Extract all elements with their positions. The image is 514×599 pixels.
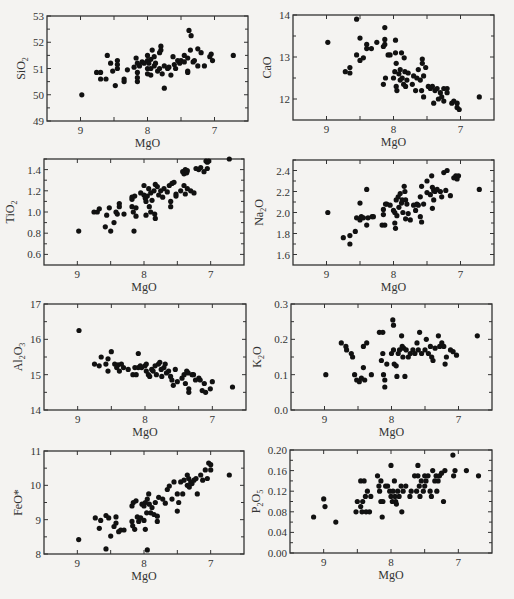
data-point <box>421 94 426 99</box>
data-point <box>444 354 449 359</box>
data-point <box>208 467 213 472</box>
y-axis-label: Al2O3 <box>11 343 27 372</box>
scatter-panel-na2o: 987MgO1.61.82.02.22.4Na2O <box>252 160 494 294</box>
data-point <box>369 46 374 51</box>
data-point <box>355 499 360 504</box>
y-tick-label: 17 <box>30 298 42 310</box>
data-point <box>381 372 386 377</box>
data-point <box>104 213 109 218</box>
data-point <box>343 69 348 74</box>
data-point <box>97 363 102 368</box>
y-axis-label: Na2O <box>252 199 268 226</box>
data-point <box>352 372 357 377</box>
data-point <box>126 367 131 372</box>
data-point <box>155 519 160 524</box>
data-point <box>202 63 207 68</box>
data-point <box>113 521 118 526</box>
data-point <box>171 479 176 484</box>
data-point <box>117 201 122 206</box>
data-point <box>202 381 207 386</box>
data-point <box>151 188 156 193</box>
data-point <box>198 377 203 382</box>
data-point <box>380 514 385 519</box>
y-tick-label: 50 <box>33 89 45 101</box>
data-point <box>457 107 462 112</box>
data-point <box>445 168 450 173</box>
data-point <box>362 377 367 382</box>
data-point <box>384 362 389 367</box>
data-point <box>364 340 369 345</box>
x-tick-label: 8 <box>388 556 394 568</box>
x-axis-label: MgO <box>132 425 158 439</box>
data-point <box>404 202 409 207</box>
data-point <box>148 73 153 78</box>
data-point <box>429 173 434 178</box>
data-point <box>399 509 404 514</box>
data-point <box>105 53 110 58</box>
data-point <box>363 494 368 499</box>
data-point <box>97 526 102 531</box>
x-tick-label: 8 <box>391 268 397 280</box>
data-point <box>117 369 122 374</box>
data-point <box>436 333 441 338</box>
x-tick-label: 8 <box>141 557 147 569</box>
y-tick-label: 0.16 <box>268 465 288 477</box>
data-point <box>141 518 146 523</box>
scatter-panel-tio2: 987MgO0.60.81.01.21.4TiO2 <box>3 156 244 294</box>
data-points <box>76 460 232 552</box>
data-point <box>395 489 400 494</box>
data-point <box>399 484 404 489</box>
data-points <box>311 453 481 525</box>
data-point <box>185 168 190 173</box>
data-point <box>414 340 419 345</box>
x-axis-label: MgO <box>381 280 407 294</box>
y-tick-label: 1.4 <box>27 164 41 176</box>
data-point <box>428 192 433 197</box>
data-point <box>421 489 426 494</box>
data-point <box>350 354 355 359</box>
data-point <box>192 58 197 63</box>
data-point <box>399 50 404 55</box>
data-point <box>333 520 338 525</box>
data-point <box>403 484 408 489</box>
data-point <box>133 214 138 219</box>
data-point <box>182 59 187 64</box>
x-tick-label: 8 <box>141 268 147 280</box>
data-point <box>424 337 429 342</box>
data-point <box>382 377 387 382</box>
data-point <box>134 372 139 377</box>
data-point <box>431 197 436 202</box>
data-point <box>382 25 387 30</box>
data-point <box>167 483 172 488</box>
data-point <box>210 58 215 63</box>
data-points <box>76 156 232 233</box>
data-point <box>357 36 362 41</box>
data-point <box>183 381 188 386</box>
data-point <box>376 484 381 489</box>
data-point <box>362 478 367 483</box>
data-point <box>454 353 459 358</box>
data-point <box>394 61 399 66</box>
data-point <box>121 212 126 217</box>
data-point <box>144 362 149 367</box>
y-tick-label: 0.20 <box>268 444 288 456</box>
data-point <box>361 55 366 60</box>
data-point <box>147 374 152 379</box>
data-point <box>394 213 399 218</box>
data-point <box>149 505 154 510</box>
data-point <box>121 527 126 532</box>
plot-frame <box>44 304 246 410</box>
data-point <box>475 333 480 338</box>
data-point <box>364 187 369 192</box>
data-points <box>79 28 236 98</box>
data-point <box>325 210 330 215</box>
data-point <box>200 478 205 483</box>
data-point <box>379 358 384 363</box>
data-point <box>115 212 120 217</box>
data-point <box>417 330 422 335</box>
data-point <box>419 88 424 93</box>
data-point <box>394 363 399 368</box>
data-point <box>441 99 446 104</box>
data-point <box>97 206 102 211</box>
data-point <box>168 73 173 78</box>
